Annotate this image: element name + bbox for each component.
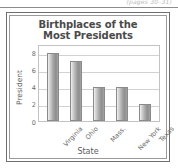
y-axis-title: President <box>15 63 24 113</box>
bar-ohio <box>70 61 82 121</box>
y-tick-label: 0 <box>32 119 36 126</box>
chart-figure-inner: Birthplaces of the Most Presidents Presi… <box>9 15 167 159</box>
bar-texas <box>139 104 151 121</box>
x-tick-label: Virginia <box>62 125 85 148</box>
x-tick-label: Mass. <box>109 125 127 144</box>
bar-mass <box>93 87 105 121</box>
bar-new-york <box>116 87 128 121</box>
x-tick-label: Ohio <box>83 125 99 141</box>
plot-area <box>38 45 160 122</box>
page-divider-rule <box>0 7 178 8</box>
y-tick-label: 2 <box>32 102 36 109</box>
chart-figure-frame: Birthplaces of the Most Presidents Presi… <box>6 12 170 162</box>
y-axis-tick-labels: 8 6 4 2 0 <box>26 45 37 122</box>
y-tick-label: 4 <box>32 85 36 92</box>
chart-title: Birthplaces of the Most Presidents <box>10 19 166 41</box>
bar-series <box>39 46 159 121</box>
y-tick-label: 8 <box>32 51 36 58</box>
page-reference-text: (pages 30–31) <box>126 0 172 5</box>
chart-title-line-1: Birthplaces of the <box>39 19 138 30</box>
chart-title-line-2: Most Presidents <box>10 30 166 41</box>
bar-virginia <box>47 53 59 121</box>
y-tick-label: 6 <box>32 68 36 75</box>
x-axis-title: State <box>10 147 166 156</box>
